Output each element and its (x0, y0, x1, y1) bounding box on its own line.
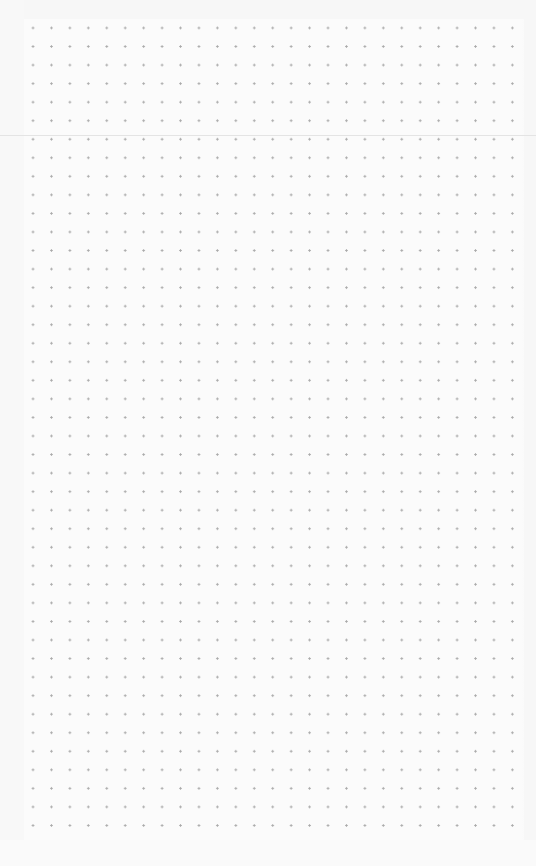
canvas-left-margin (0, 0, 24, 866)
canvas-top-margin (0, 0, 536, 19)
canvas-right-margin (524, 0, 536, 866)
canvas-bottom-margin (0, 840, 536, 866)
dot-grid-canvas[interactable] (0, 0, 536, 866)
header-divider (0, 135, 536, 136)
